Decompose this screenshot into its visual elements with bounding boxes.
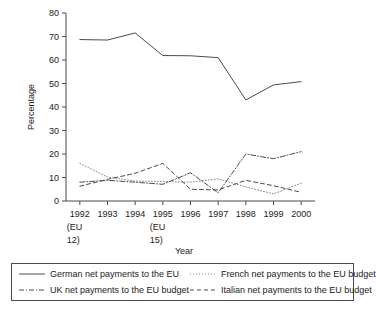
- svg-text:0: 0: [54, 196, 59, 206]
- svg-text:1992: 1992: [70, 209, 90, 219]
- svg-text:1993: 1993: [97, 209, 117, 219]
- legend-label-uk: UK net payments to the EU budget: [50, 285, 189, 296]
- svg-text:10: 10: [49, 173, 59, 183]
- svg-text:2000: 2000: [291, 209, 311, 219]
- y-axis-tick-labels: 01020304050607080: [49, 8, 59, 206]
- svg-text:20: 20: [49, 149, 59, 159]
- x-axis-title: Year: [175, 246, 193, 256]
- svg-text:(EU: (EU: [150, 222, 166, 232]
- svg-text:1994: 1994: [125, 209, 145, 219]
- series-line-0: [80, 33, 301, 100]
- svg-text:1999: 1999: [263, 209, 283, 219]
- legend-label-german: German net payments to the EU: [50, 269, 179, 280]
- legend-swatch-solid: [18, 269, 46, 279]
- chart-legend: German net payments to the EU French net…: [11, 263, 354, 301]
- data-series-group: [80, 33, 301, 194]
- svg-text:1995: 1995: [153, 209, 173, 219]
- svg-text:80: 80: [49, 8, 59, 18]
- legend-swatch-dashed: [189, 285, 217, 295]
- legend-label-french: French net payments to the EU budget: [221, 269, 376, 280]
- svg-text:1998: 1998: [236, 209, 256, 219]
- svg-text:1997: 1997: [208, 209, 228, 219]
- legend-entry-german: German net payments to the EU: [18, 269, 189, 280]
- svg-text:15): 15): [150, 235, 163, 245]
- x-axis-ticks: [80, 201, 301, 205]
- x-axis-tick-labels: 1992(EU12)199319941995(EU15)199619971998…: [67, 209, 311, 245]
- y-axis-ticks: [62, 13, 66, 201]
- legend-swatch-dotted: [189, 269, 217, 279]
- svg-text:40: 40: [49, 102, 59, 112]
- svg-text:60: 60: [49, 55, 59, 65]
- series-line-1: [80, 163, 301, 194]
- svg-text:50: 50: [49, 79, 59, 89]
- legend-label-italian: Italian net payments to the EU budget: [221, 285, 372, 296]
- legend-entry-french: French net payments to the EU budget: [189, 269, 376, 280]
- legend-entry-uk: UK net payments to the EU budget: [18, 285, 189, 296]
- svg-text:1996: 1996: [180, 209, 200, 219]
- svg-text:(EU: (EU: [67, 222, 83, 232]
- series-line-2: [80, 152, 301, 193]
- y-axis-title: Percentage: [26, 84, 36, 130]
- svg-text:70: 70: [49, 32, 59, 42]
- svg-text:12): 12): [67, 235, 80, 245]
- legend-entry-italian: Italian net payments to the EU budget: [189, 285, 376, 296]
- legend-swatch-dashdot: [18, 285, 46, 295]
- svg-text:30: 30: [49, 126, 59, 136]
